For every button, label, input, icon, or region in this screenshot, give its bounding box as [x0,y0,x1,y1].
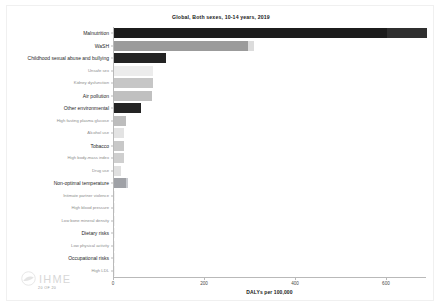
ihme-logo-subtitle: 20 OF 20 [38,286,56,290]
y-axis-label: High blood pressure [72,206,109,210]
bar-row[interactable]: Kidney dysfunction [113,77,426,90]
x-axis-tick [295,277,296,280]
bar-row[interactable]: High LDL [113,265,426,278]
y-axis-tick [111,45,114,46]
bar-row[interactable]: Low physical activity [113,240,426,253]
y-axis-label: Intimate partner violence [63,194,109,198]
y-axis-tick [111,133,114,134]
ihme-logo-text: IHME [39,273,71,285]
bar-row[interactable]: WaSH [113,40,426,53]
y-axis-label: High fasting plasma glucose [57,119,109,123]
bar-row[interactable]: High blood pressure [113,202,426,215]
x-axis-tick [113,277,114,280]
bar-row[interactable]: Non-optimal temperature [113,177,426,190]
y-axis-label: Tobacco [90,143,109,148]
y-axis-tick [111,220,114,221]
bar-row[interactable]: Tobacco [113,140,426,153]
bar-row[interactable]: Air pollution [113,90,426,103]
y-axis-label: Dietary risks [81,231,109,236]
bar-value [114,116,126,126]
y-axis-label: Low bone mineral density [62,219,110,223]
y-axis-tick [111,120,114,121]
bar-value [114,53,166,63]
bar-value [114,166,121,176]
y-axis-tick [111,70,114,71]
y-axis-label: Malnutrition [83,31,109,36]
y-axis-tick [111,145,114,146]
y-axis-label: High body-mass index [68,156,109,160]
y-axis-label: Non-optimal temperature [54,181,109,186]
bar-value [114,141,124,151]
y-axis-tick [111,58,114,59]
x-axis-title: DALYs per 100,000 [113,289,426,295]
y-axis-tick [111,208,114,209]
x-axis-tick [204,277,205,280]
bar-row[interactable]: Intimate partner violence [113,190,426,203]
x-axis-tick-label: 400 [291,281,299,286]
y-axis-label: WaSH [95,43,109,48]
y-axis-tick [111,33,114,34]
y-axis-tick [111,95,114,96]
bar-row[interactable]: Drug use [113,165,426,178]
y-axis-label: Drug use [92,169,109,173]
y-axis-tick [111,158,114,159]
y-axis-tick [111,170,114,171]
y-axis-label: Kidney dysfunction [74,81,109,85]
bar-row[interactable]: Low bone mineral density [113,215,426,228]
bar-value [114,28,387,38]
bar-row[interactable]: Dietary risks [113,227,426,240]
y-axis-label: Other environmental [64,106,109,111]
y-axis-tick [111,83,114,84]
y-axis-tick [111,270,114,271]
ihme-logo-mark [21,271,36,286]
plot-area: MalnutritionWaSHChildhood sexual abuse a… [113,27,426,277]
y-axis-label: Childhood sexual abuse and bullying [28,56,109,61]
bar-value [114,91,152,101]
y-axis-tick [111,108,114,109]
y-axis-tick [111,258,114,259]
y-axis-label: High LDL [92,269,109,273]
y-axis-tick [111,245,114,246]
bar-row[interactable]: Alcohol use [113,127,426,140]
bar-row[interactable]: High fasting plasma glucose [113,115,426,128]
y-axis-tick [111,233,114,234]
y-axis-tick [111,183,114,184]
bar-value [114,153,124,163]
bar-row[interactable]: Other environmental [113,102,426,115]
y-axis-tick [111,195,114,196]
bar-value [114,66,153,76]
y-axis-label: Occupational risks [68,256,109,261]
x-axis-tick-label: 200 [200,281,208,286]
bar-row[interactable]: Malnutrition [113,27,426,40]
chart-title: Global, Both sexes, 10-14 years, 2019 [7,14,435,20]
y-axis-label: Alcohol use [87,131,109,135]
y-axis-label: Unsafe sex [88,69,109,73]
x-axis-tick-label: 600 [382,281,390,286]
bar-row[interactable]: Unsafe sex [113,65,426,78]
x-axis-tick-label: 0 [112,281,115,286]
bar-value [114,128,124,138]
bar-row[interactable]: Childhood sexual abuse and bullying [113,52,426,65]
ihme-logo: IHME [21,271,71,286]
y-axis-label: Low physical activity [71,244,109,248]
y-axis-label: Air pollution [83,93,109,98]
x-axis-line [113,277,426,278]
bar-row[interactable]: High body-mass index [113,152,426,165]
bar-value [114,78,153,88]
bar-value [114,103,141,113]
chart-card: Global, Both sexes, 10-14 years, 2019 Ma… [6,5,434,301]
bar-row[interactable]: Occupational risks [113,252,426,265]
x-axis-tick [386,277,387,280]
bar-value [114,178,126,188]
bar-value [114,41,248,51]
